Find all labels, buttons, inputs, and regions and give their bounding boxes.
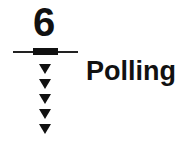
step-number: 6 [30,2,58,42]
down-triangle-icon [39,94,51,104]
down-triangle-icon [39,64,51,74]
down-triangle-icon [39,124,51,134]
step-label: Polling [86,56,176,86]
down-arrow-stack [38,64,52,139]
thick-bar-segment [33,48,58,55]
down-triangle-icon [39,79,51,89]
down-triangle-icon [39,109,51,119]
